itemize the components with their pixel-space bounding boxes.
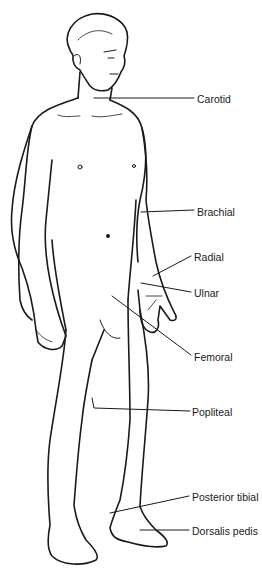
label-brachial: Brachial — [197, 206, 235, 218]
legs — [48, 300, 168, 564]
head — [67, 14, 127, 91]
label-ulnar: Ulnar — [194, 287, 219, 299]
label-carotid: Carotid — [197, 93, 231, 105]
label-femoral: Femoral — [194, 351, 233, 363]
torso — [19, 98, 146, 330]
human-figure-illustration — [0, 0, 262, 571]
label-dorsalis-pedis: Dorsalis pedis — [192, 525, 258, 537]
label-posterior-tibial: Posterior tibial — [192, 491, 259, 503]
arm-right — [138, 128, 176, 332]
label-radial: Radial — [194, 251, 224, 263]
label-popliteal: Popliteal — [192, 406, 232, 418]
